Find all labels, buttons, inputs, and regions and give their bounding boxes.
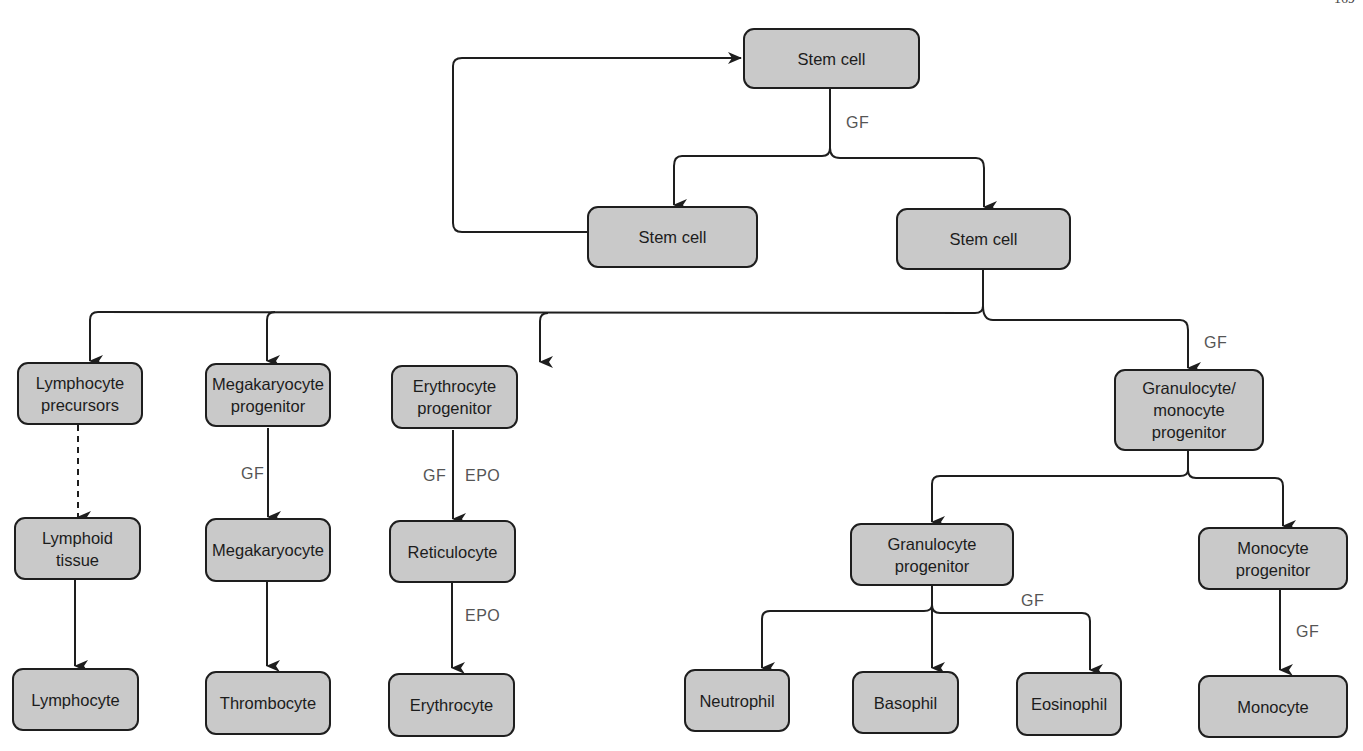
gf-label-granulocyte: GF (1021, 592, 1044, 610)
gf-label-monocyte: GF (1296, 623, 1319, 641)
node-reticulocyte: Reticulocyte (389, 520, 516, 583)
node-erythrocyte: Erythrocyte (388, 673, 515, 737)
node-megakaryocyte: Megakaryocyte (205, 518, 331, 582)
gf-label-erythrocyte: GF (423, 467, 446, 485)
node-basophil: Basophil (852, 671, 959, 734)
node-lymphocyte: Lymphocyte (12, 668, 139, 731)
epo-label-erythrocyte: EPO (465, 467, 500, 485)
node-eosinophil: Eosinophil (1016, 672, 1122, 736)
node-granulocyte-progenitor: Granulocyte progenitor (850, 523, 1014, 586)
node-thrombocyte: Thrombocyte (205, 671, 331, 735)
node-stem-cell-left: Stem cell (587, 206, 758, 268)
node-erythrocyte-progenitor: Erythrocyte progenitor (391, 365, 518, 429)
gf-label-gm: GF (1204, 334, 1227, 352)
node-monocyte: Monocyte (1198, 675, 1348, 738)
epo-label-reticulocyte: EPO (465, 607, 500, 625)
node-neutrophil: Neutrophil (684, 669, 790, 732)
gf-label-megakaryocyte: GF (241, 465, 264, 483)
node-stem-cell-right: Stem cell (896, 208, 1071, 270)
node-monocyte-progenitor: Monocyte progenitor (1198, 527, 1348, 590)
node-stem-cell-top: Stem cell (743, 28, 920, 89)
node-lymphoid-tissue: Lymphoid tissue (14, 517, 141, 580)
node-megakaryocyte-progenitor: Megakaryocyte progenitor (205, 363, 331, 427)
node-lymphocyte-precursors: Lymphocyte precursors (17, 362, 143, 425)
gf-label-stem-split: GF (846, 114, 869, 132)
node-granulocyte-monocyte-progenitor: Granulocyte/ monocyte progenitor (1114, 369, 1264, 451)
